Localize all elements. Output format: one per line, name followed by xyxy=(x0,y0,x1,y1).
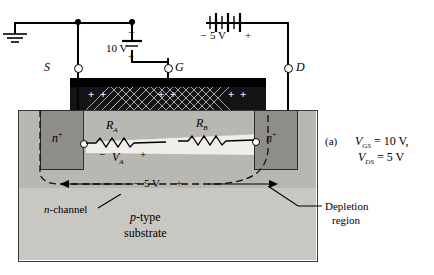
drain-battery-plus-label: + xyxy=(245,29,251,41)
depletion-leader-line xyxy=(268,186,324,214)
gate-charge-plus-1: + xyxy=(88,88,94,100)
va-label: VA xyxy=(112,150,124,166)
drain-battery-minus-label: − xyxy=(200,29,206,41)
gate-charge-plus-2: + xyxy=(100,88,106,100)
drain-terminal-node xyxy=(284,64,293,73)
source-terminal-node xyxy=(74,64,83,73)
depletion-region-label-line2: region xyxy=(332,214,360,226)
p-type-label: p-type xyxy=(130,210,161,225)
source-terminal-label: S xyxy=(44,60,50,75)
va-minus-sign: − xyxy=(99,148,105,160)
gate-battery-plus-label: + xyxy=(128,50,134,62)
gate-charge-plus-6: + xyxy=(240,88,246,100)
n-channel-label: n-channel xyxy=(44,203,87,215)
gate-charge-plus-4: + xyxy=(170,88,176,100)
figure-canvas: n+ n+ xyxy=(0,0,434,275)
va-plus-sign: + xyxy=(140,148,146,160)
junction-dot-gate-branch xyxy=(129,19,135,25)
gate-terminal-label: G xyxy=(175,60,184,75)
gate-battery-value: 10 V xyxy=(106,42,128,54)
resistor-b-symbol xyxy=(178,132,254,148)
ground-icon xyxy=(2,32,28,46)
channel-drop-arrow xyxy=(60,178,278,190)
n-channel-leader-line xyxy=(88,194,122,214)
drain-terminal-label: D xyxy=(296,60,305,75)
channel-drop-value: 5 V xyxy=(144,177,160,189)
junction-dot-source xyxy=(75,19,81,25)
resistor-b-label: RB xyxy=(196,116,208,132)
depletion-region-label-line1: Depletion xyxy=(325,200,368,212)
caption-line-1: VGS = 10 V, xyxy=(355,134,409,150)
resistor-a-symbol xyxy=(86,134,166,150)
gate-terminal-node xyxy=(164,64,173,73)
drain-battery-value: 5 V xyxy=(210,29,226,41)
top-rail-wire xyxy=(14,22,132,24)
gate-branch-horizontal xyxy=(131,61,168,63)
channel-drop-plus: + xyxy=(176,177,182,189)
substrate-label: substrate xyxy=(124,226,167,241)
gate-metal-plate xyxy=(70,78,266,87)
gate-battery-minus-label: − xyxy=(128,26,134,38)
caption-index: (a) xyxy=(325,135,337,147)
resistor-a-label: RA xyxy=(106,118,118,134)
caption-line-2: VDS = 5 V xyxy=(358,150,404,166)
channel-drop-minus: − xyxy=(133,177,139,189)
gate-charge-plus-3: + xyxy=(158,88,164,100)
gate-charge-plus-5: + xyxy=(228,88,234,100)
